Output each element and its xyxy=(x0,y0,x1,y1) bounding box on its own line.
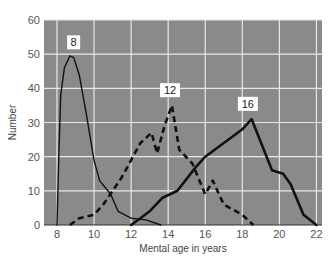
y-tick-label: 10 xyxy=(28,185,40,197)
x-tick-label: 12 xyxy=(125,228,137,240)
y-tick-label: 50 xyxy=(28,48,40,60)
x-tick-label: 18 xyxy=(236,228,248,240)
x-tick-label: 16 xyxy=(199,228,211,240)
line-chart: 8101214161820220102030405060Mental age i… xyxy=(0,0,336,261)
y-tick-label: 30 xyxy=(28,117,40,129)
x-tick-label: 22 xyxy=(310,228,322,240)
x-tick-label: 8 xyxy=(54,228,60,240)
y-tick-label: 20 xyxy=(28,151,40,163)
x-tick-label: 20 xyxy=(273,228,285,240)
series-label-16: 16 xyxy=(242,98,254,110)
y-tick-label: 40 xyxy=(28,82,40,94)
y-tick-label: 60 xyxy=(28,14,40,26)
y-tick-label: 0 xyxy=(34,219,40,231)
series-label-8: 8 xyxy=(71,36,77,48)
y-axis-label: Number xyxy=(7,104,18,140)
x-axis-label: Mental age in years xyxy=(139,243,226,254)
series-label-12: 12 xyxy=(164,84,176,96)
x-tick-label: 10 xyxy=(88,228,100,240)
x-tick-label: 14 xyxy=(162,228,174,240)
